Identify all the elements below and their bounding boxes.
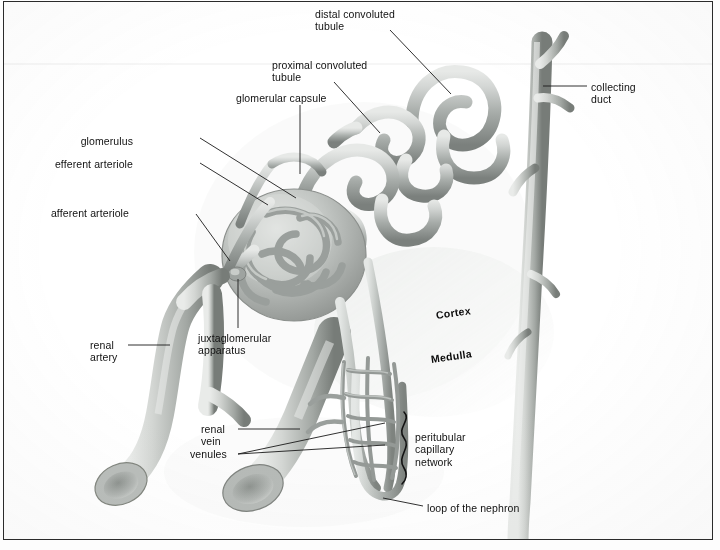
label-loop-of-the-nephron: loop of the nephron <box>427 502 519 514</box>
label-juxtaglomerular-apparatus: juxtaglomerular apparatus <box>198 332 271 357</box>
label-collecting-duct: collecting duct <box>591 81 636 106</box>
label-efferent-arteriole: efferent arteriole <box>55 158 133 170</box>
label-venules: venules <box>190 448 227 460</box>
label-renal-artery: renal artery <box>90 339 117 364</box>
juxtaglomerular-apparatus-structure <box>228 267 246 281</box>
label-afferent-arteriole: afferent arteriole <box>51 207 129 219</box>
diagram-frame: distal convoluted tubule proximal convol… <box>3 1 713 540</box>
label-glomerular-capsule: glomerular capsule <box>236 92 327 104</box>
label-proximal-convoluted-tubule: proximal convoluted tubule <box>272 59 367 84</box>
label-distal-convoluted-tubule: distal convoluted tubule <box>315 8 395 33</box>
label-glomerulus: glomerulus <box>81 135 133 147</box>
label-peritubular-capillary-network: peritubular capillary network <box>415 431 466 468</box>
nephron-diagram-figure: distal convoluted tubule proximal convol… <box>0 0 720 550</box>
label-renal-vein: renal vein <box>201 423 225 448</box>
